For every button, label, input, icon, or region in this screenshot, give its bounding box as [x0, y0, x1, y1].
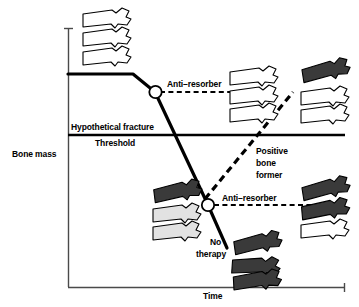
no-therapy-label-line1: No: [210, 238, 221, 247]
x-axis-label: Time: [203, 292, 222, 301]
y-axis-label: Bone mass: [12, 150, 56, 159]
anti-resorber-lower-label: Anti–resorber: [222, 194, 276, 203]
threshold-label: Threshold: [95, 139, 135, 148]
positive-bone-former-label-line3: former: [256, 171, 282, 180]
vertebra-group-positive-bone-former: [301, 56, 352, 124]
vertebra-group-anti-resorber-upper: [230, 66, 278, 123]
upper-branch-point-marker: [149, 86, 161, 98]
lower-branch-point-marker: [202, 199, 214, 211]
no-therapy-decline-line: [68, 74, 227, 248]
vertebra-group-late-intervention: [153, 178, 203, 241]
bone-mass-time-diagram: Bone mass Time Hypothetical fracture Thr…: [0, 0, 359, 307]
positive-bone-former-label-line2: bone: [256, 159, 276, 168]
vertebra-group-anti-resorber-lower: [301, 174, 352, 239]
positive-bone-former-label-line1: Positive: [256, 147, 288, 156]
no-therapy-label-line2: therapy: [196, 250, 226, 259]
hypothetical-fracture-label: Hypothetical fracture: [71, 123, 154, 132]
vertebra-group-healthy-baseline: [83, 8, 131, 66]
anti-resorber-upper-label: Anti–resorber: [167, 80, 221, 89]
vertebra-group-no-therapy: [232, 229, 284, 291]
